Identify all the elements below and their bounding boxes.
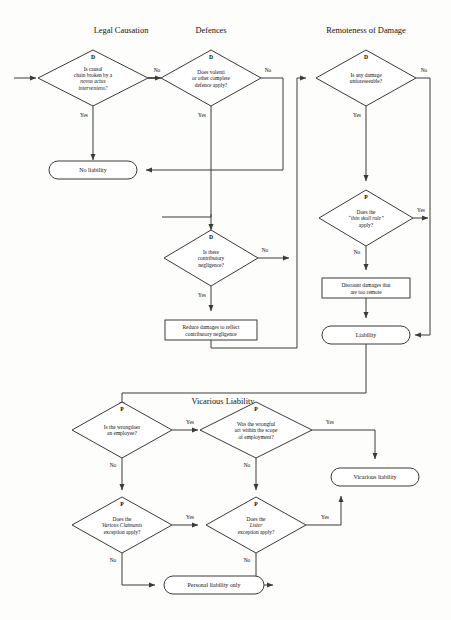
- process-discount-damages[interactable]: Discount damages thatare too remote: [322, 278, 410, 298]
- decision-line: Was the wrongful: [237, 421, 276, 427]
- terminal-label: Vicarious liability: [353, 474, 396, 480]
- decision-line: chain broken by a: [74, 72, 113, 78]
- edge-label-causation-no: No: [154, 67, 161, 73]
- decision-lister[interactable]: PDoes theListerexception apply?: [206, 497, 306, 553]
- decision-line: Does the: [112, 516, 132, 522]
- process-line: are too remote: [350, 289, 382, 295]
- terminal-label: Liability: [356, 332, 377, 338]
- decision-line: act within the scope: [235, 427, 279, 433]
- edge-volenti-yes: [162, 106, 211, 217]
- decision-badge-volenti: D: [209, 54, 213, 60]
- flowchart-canvas: Legal Causation Defences Remoteness of D…: [0, 0, 451, 620]
- decision-line: Does the: [246, 516, 266, 522]
- edge-reduce-to-feed: [211, 340, 297, 348]
- section-title-vicarious: Vicarious Liability: [192, 397, 256, 406]
- decision-badge-thin-skull: P: [364, 194, 368, 200]
- decision-line: Is causal: [84, 66, 103, 72]
- decision-line: interveniens?: [78, 85, 107, 91]
- edge-label-thin-skull-yes: Yes: [417, 207, 425, 213]
- decision-badge-various-claimants: P: [120, 501, 124, 507]
- edge-label-employee-yes: Yes: [186, 419, 194, 425]
- edge-label-volenti-yes: Yes: [198, 112, 206, 118]
- decision-scope[interactable]: PWas the wrongfulact within the scopeof …: [200, 402, 312, 458]
- decision-line: exception apply?: [104, 529, 141, 535]
- decision-line: negligence?: [198, 262, 224, 268]
- edge-label-unforeseeable-no: No: [421, 67, 428, 73]
- decision-line: “thin skull rule”: [348, 215, 384, 221]
- edge-label-scope-yes: Yes: [326, 419, 334, 425]
- terminal-vicarious-liability[interactable]: Vicarious liability: [331, 468, 419, 486]
- decision-line: Various Claimants: [102, 522, 142, 528]
- decision-line: Is any damage: [350, 72, 382, 78]
- decision-line: Does volenti: [197, 69, 225, 75]
- decision-contributory[interactable]: DIs therecontributorynegligence?: [164, 230, 258, 286]
- decision-line: Lister: [249, 522, 263, 528]
- terminal-no-liability[interactable]: No liability: [49, 161, 137, 179]
- decision-line: an employee?: [107, 430, 137, 436]
- edge-label-various-no: No: [110, 557, 117, 563]
- decision-causation[interactable]: DIs causalchain broken by anovus actusin…: [38, 50, 148, 106]
- decision-line: novus actus: [80, 78, 105, 84]
- edge-label-contributory-no: No: [262, 247, 269, 253]
- terminal-personal-liability[interactable]: Personal liability only: [164, 576, 264, 594]
- edge-label-employee-no: No: [110, 462, 117, 468]
- decision-badge-lister: P: [254, 501, 258, 507]
- edge-label-unforeseeable-yes: Yes: [353, 112, 361, 118]
- decision-badge-employee: P: [120, 406, 124, 412]
- decision-line: Is the wrongdoer: [104, 424, 141, 430]
- edge-label-causation-yes: Yes: [80, 112, 88, 118]
- decision-line: unforeseeable?: [350, 78, 383, 84]
- edge-various-no: [122, 553, 155, 585]
- edge-label-contributory-yes: Yes: [198, 292, 206, 298]
- edge-label-lister-no: No: [244, 557, 251, 563]
- node-layer: DIs causalchain broken by anovus actusin…: [38, 50, 428, 594]
- decision-line: exception apply?: [238, 529, 275, 535]
- decision-line: apply?: [359, 222, 374, 228]
- decision-unforeseeable[interactable]: DIs any damageunforeseeable?: [316, 50, 416, 106]
- decision-line: of employment?: [238, 434, 274, 440]
- process-line: contributory negligence: [185, 331, 237, 337]
- decision-line: defence apply?: [195, 82, 228, 88]
- edge-label-thin-skull-no: No: [354, 249, 361, 255]
- decision-badge-scope: P: [254, 406, 258, 412]
- edge-lister-yes: [306, 496, 341, 525]
- decision-badge-causation: D: [91, 54, 95, 60]
- decision-line: Does the: [356, 209, 376, 215]
- process-reduce-damages[interactable]: Reduce damages to reflectcontributory ne…: [165, 320, 257, 340]
- process-line: Discount damages that: [341, 282, 391, 288]
- decision-badge-contributory: D: [209, 234, 213, 240]
- decision-line: or other complete: [192, 75, 231, 81]
- decision-employee[interactable]: PIs the wrongdoeran employee?: [72, 402, 172, 458]
- decision-badge-unforeseeable: D: [364, 54, 368, 60]
- section-title-defences: Defences: [195, 26, 226, 35]
- section-title-legal-causation: Legal Causation: [94, 26, 149, 35]
- decision-various-claimants[interactable]: PDoes theVarious Claimantsexception appl…: [72, 497, 172, 553]
- edge-label-volenti-no: No: [265, 67, 272, 73]
- process-line: Reduce damages to reflect: [182, 324, 240, 330]
- section-title-remoteness: Remoteness of Damage: [326, 26, 406, 35]
- terminal-label: No liability: [79, 167, 107, 173]
- terminal-liability[interactable]: Liability: [322, 326, 410, 344]
- decision-line: contributory: [198, 255, 225, 261]
- terminal-label: Personal liability only: [188, 582, 241, 588]
- edge-label-scope-no: No: [244, 462, 251, 468]
- decision-volenti[interactable]: DDoes volentior other completedefence ap…: [161, 50, 261, 106]
- decision-thin-skull[interactable]: PDoes the“thin skull rule”apply?: [319, 190, 413, 246]
- edge-label-lister-yes: Yes: [321, 514, 329, 520]
- edge-feed-to-remoteness: [297, 78, 306, 258]
- edge-scope-yes: [312, 430, 375, 459]
- edge-label-various-yes: Yes: [186, 514, 194, 520]
- decision-line: Is there: [203, 249, 220, 255]
